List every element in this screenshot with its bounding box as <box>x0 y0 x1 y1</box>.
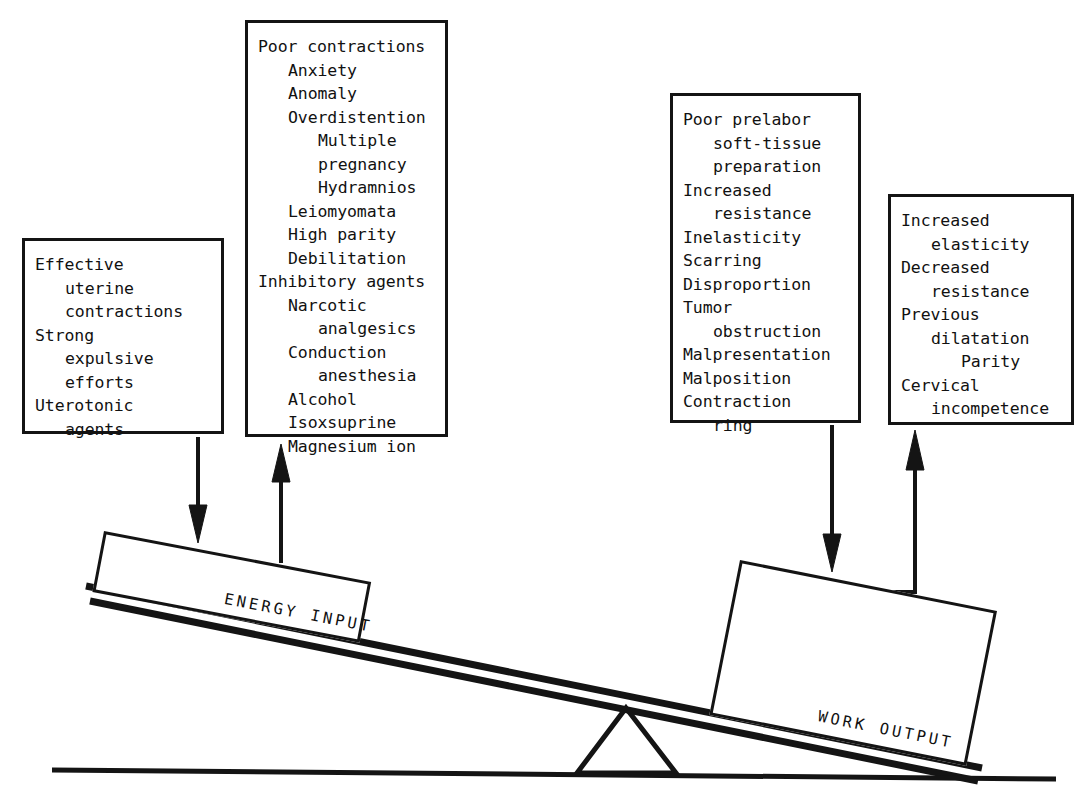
arrow-poor-prelabor-to-work-output <box>823 425 841 572</box>
arrow-effective-to-energy-input <box>189 437 207 543</box>
arrow-poor-contractions-from-energy-input <box>272 444 290 563</box>
ground-line <box>52 770 1056 779</box>
arrow-increased-elasticity-from-work-output <box>880 430 924 592</box>
seesaw-diagram: EffectiveuterinecontractionsStrongexpuls… <box>0 0 1089 798</box>
